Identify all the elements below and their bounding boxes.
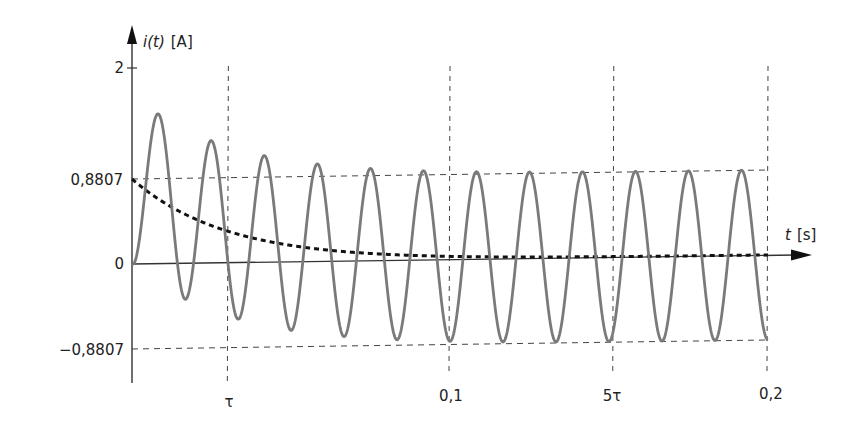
chart: i(t)[A] t[s] 2 0,8807 0 −0,8807 τ 0,1 5τ…	[0, 0, 861, 430]
x-axis-label: t[s]	[785, 226, 816, 244]
y-axis-label: i(t)[A]	[143, 33, 193, 51]
y-axis-arrow-icon	[127, 25, 137, 44]
vertical-reference-line	[767, 66, 768, 372]
vertical-reference-line	[449, 66, 450, 372]
y-tick-label-amp: 0,8807	[71, 171, 124, 189]
x-tick-label-0-1: 0,1	[439, 387, 463, 405]
vertical-reference-line	[227, 66, 228, 383]
y-tick-label-0: 0	[114, 255, 124, 273]
x-tick-label-0-2: 0,2	[759, 385, 783, 403]
y-tick-label-2: 2	[114, 59, 124, 77]
y-tick-label-neg-amp: −0,8807	[59, 341, 124, 359]
x-axis-arrow-icon	[791, 250, 812, 261]
x-tick-label-5tau: 5τ	[603, 387, 622, 405]
x-tick-label-tau: τ	[224, 393, 233, 411]
reference-lines	[132, 66, 768, 383]
